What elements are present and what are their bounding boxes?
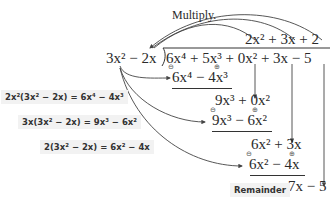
quotient: 2x² + 3x + 2	[245, 32, 319, 47]
subtract-rule-3	[250, 175, 305, 176]
subtract-rule-1	[172, 88, 232, 89]
dividend: 6x⁴ + 5x³ + 0x² + 3x − 5	[166, 51, 312, 66]
product-3: 6x² − 4x	[249, 157, 299, 172]
product-1: 6x⁴ − 4x³	[172, 70, 228, 85]
remainder-label: Remainder	[230, 183, 290, 197]
bring-down-1: 9x³ + 0x²	[215, 93, 270, 108]
product-2: 9x³ − 6x²	[212, 113, 267, 128]
multiply-label: Multiply.	[172, 8, 216, 23]
step-note-3: 2(3x² − 2x) = 6x² − 4x	[40, 140, 154, 154]
subtract-rule-2	[212, 131, 272, 132]
remainder: 7x − 5	[288, 179, 326, 194]
step-note-1: 2x²(3x² − 2x) = 6x⁴ − 4x³	[1, 90, 128, 104]
divisor: 3x² − 2x	[106, 51, 156, 66]
step-note-2: 3x(3x² − 2x) = 9x³ − 6x²	[18, 115, 141, 129]
